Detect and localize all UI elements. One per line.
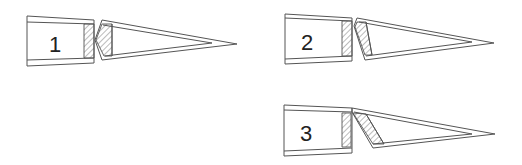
right-inner-top-line xyxy=(103,25,212,43)
left-inner-bottom-line xyxy=(284,148,352,151)
right-outer-bottom-line xyxy=(365,43,494,60)
left-inner-top-line xyxy=(284,110,352,112)
right-outer-bottom-line xyxy=(102,44,237,60)
left-inner-bottom-line xyxy=(27,58,94,60)
right-outer-bottom-line xyxy=(373,134,495,148)
right-inner-top-line xyxy=(359,22,472,42)
panel-1: 1 xyxy=(27,16,237,66)
right-inner-bottom-line xyxy=(366,42,472,56)
panel-label: 1 xyxy=(49,32,61,57)
right-outer-top-line xyxy=(357,18,494,43)
panel-label: 3 xyxy=(300,121,312,146)
panel-3: 3 xyxy=(284,105,495,156)
panel-label: 2 xyxy=(301,30,313,55)
diagram-canvas: 123 xyxy=(0,0,522,165)
left-inner-top-line xyxy=(285,18,352,21)
right-outer-top-line xyxy=(102,20,237,44)
left-hatched-block xyxy=(84,24,94,58)
left-hatched-block xyxy=(342,21,352,56)
left-inner-bottom-line xyxy=(285,56,352,59)
panel-2: 2 xyxy=(285,14,494,64)
left-inner-top-line xyxy=(27,22,94,24)
left-hatched-block xyxy=(342,113,351,147)
right-inner-bottom-line xyxy=(105,43,212,56)
